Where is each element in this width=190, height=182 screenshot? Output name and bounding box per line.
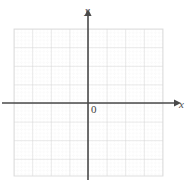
y-axis-label: y xyxy=(85,5,90,16)
coordinate-plane-figure: y x 0 xyxy=(0,0,190,182)
x-axis-label: x xyxy=(179,99,184,110)
origin-label: 0 xyxy=(91,104,97,115)
coordinate-plane-svg xyxy=(0,0,190,182)
